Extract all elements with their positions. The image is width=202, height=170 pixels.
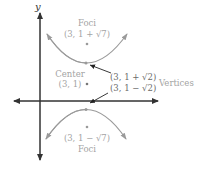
- focus-bottom-coordinate: (3, 1 − √7): [64, 133, 110, 143]
- focus-top-coordinate: (3, 1 + √7): [64, 29, 110, 39]
- foci-bottom-label: Foci: [78, 144, 96, 154]
- foci-top-label: Foci: [78, 18, 96, 28]
- center-label: Center: [55, 69, 85, 79]
- vertices-label: Vertices: [158, 78, 194, 88]
- center-coordinate: (3, 1): [59, 79, 82, 89]
- vertex-top-pointer: [90, 65, 111, 73]
- vertex-top-coordinate: (3, 1 + √2): [110, 72, 156, 82]
- vertex-bottom-coordinate: (3, 1 − √2): [110, 83, 156, 93]
- hyperbola-diagram: y Foci (3, 1 + √7) Center (3, 1) (3, 1 +…: [0, 0, 202, 170]
- focus-top-point: [86, 43, 89, 46]
- center-point: [86, 83, 89, 86]
- focus-bottom-point: [86, 126, 89, 129]
- vertex-top-point: [85, 62, 88, 65]
- y-axis-label: y: [34, 1, 41, 12]
- vertex-bottom-point: [85, 108, 88, 111]
